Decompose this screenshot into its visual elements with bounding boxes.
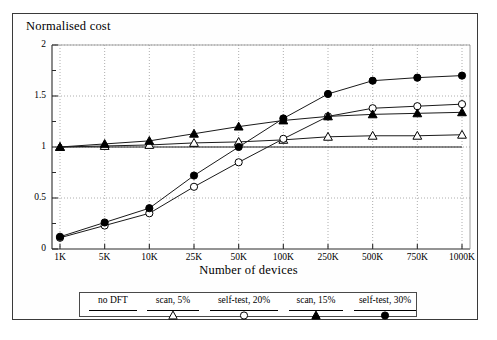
y-tick-label: 1 [8,141,46,151]
data-point-filled-circle [190,172,197,179]
legend-label: self-test, 20% [204,295,284,306]
legend-sample [142,306,204,315]
data-point-filled-circle [101,219,108,226]
data-point-filled-circle [56,233,63,240]
x-tick-label: 750K [392,252,442,262]
y-tick-label: 2 [8,39,46,49]
data-point-filled-circle [414,74,421,81]
data-point-filled-circle [324,90,331,97]
data-point-open-circle [235,159,242,166]
legend-entry: self-test, 30% [348,295,422,315]
legend-marker-open-circle [240,306,249,315]
chart-plot [0,0,497,340]
data-point-open-circle [240,312,247,319]
x-tick-label: 10K [124,252,174,262]
x-tick-label: 250K [303,252,353,262]
legend-label: scan, 5% [142,295,204,306]
legend-label: self-test, 30% [348,295,422,306]
x-tick-label: 25K [169,252,219,262]
x-tick-label: 5K [80,252,130,262]
chart-legend: no DFTscan, 5%self-test, 20%scan, 15%sel… [79,292,417,317]
x-tick-label: 50K [214,252,264,262]
data-point-open-circle [458,101,465,108]
legend-marker-filled-triangle [312,306,321,315]
data-point-open-circle [190,183,197,190]
legend-marker-glyph [381,312,388,319]
legend-marker-glyph [240,312,247,319]
data-point-filled-triangle [312,311,321,319]
legend-line [89,310,138,311]
legend-sample [284,306,348,315]
legend-entry: no DFT [84,295,142,315]
data-point-filled-circle [458,72,465,79]
legend-marker-glyph [169,311,178,319]
data-point-filled-circle [369,77,376,84]
x-tick-label: 1K [35,252,85,262]
x-tick-label: 100K [258,252,308,262]
legend-label: scan, 15% [284,295,348,306]
legend-sample [204,306,284,315]
data-point-filled-circle [280,115,287,122]
y-tick-label: 0 [8,243,46,253]
legend-entry: scan, 15% [284,295,348,315]
data-point-filled-circle [235,143,242,150]
legend-label: no DFT [84,295,142,306]
legend-sample [348,306,422,315]
legend-marker-open-triangle [169,306,178,315]
legend-marker-filled-circle [381,306,390,315]
data-point-open-circle [280,135,287,142]
data-point-filled-circle [381,312,388,319]
figure-container: Normalised cost Number of devices 1K5K10… [0,0,497,340]
legend-marker-glyph [312,311,321,319]
x-tick-label: 500K [348,252,398,262]
y-tick-label: 0.5 [8,192,46,202]
x-tick-label: 1000K [437,252,487,262]
data-point-open-triangle [169,311,178,319]
data-point-filled-circle [146,205,153,212]
legend-entry: self-test, 20% [204,295,284,315]
legend-sample [84,306,142,315]
y-tick-label: 1.5 [8,90,46,100]
legend-entry: scan, 5% [142,295,204,315]
